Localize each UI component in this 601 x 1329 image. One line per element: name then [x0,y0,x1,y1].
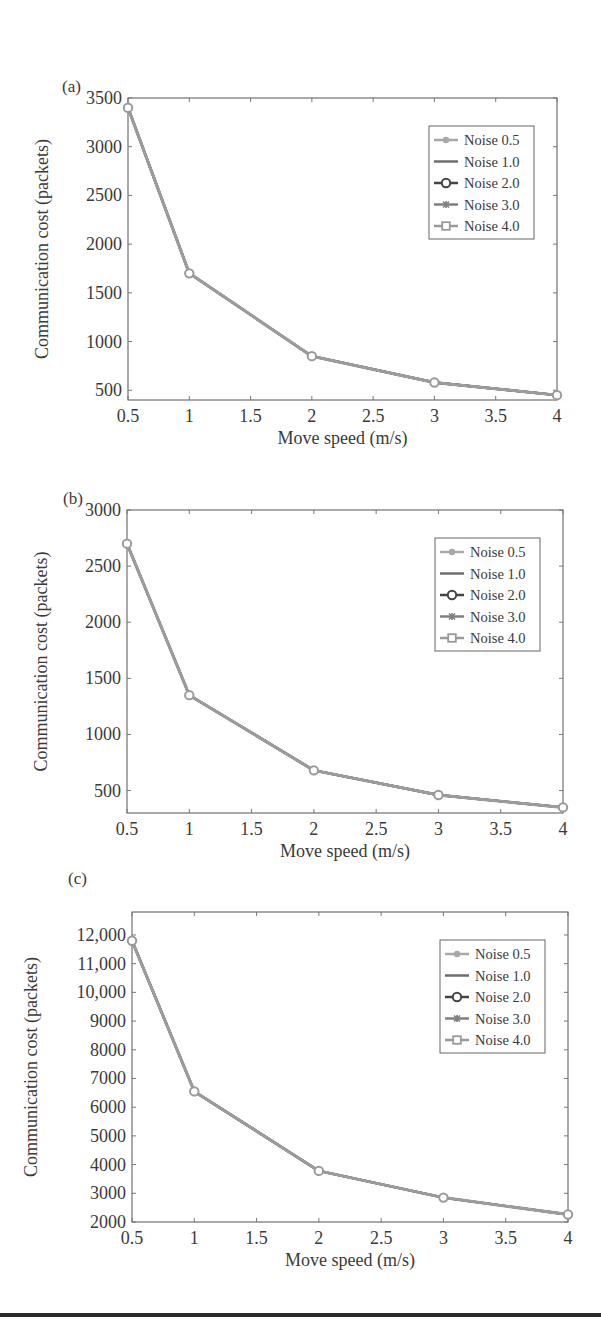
x-tick-label: 2 [309,819,318,839]
y-tick-label: 2000 [90,1212,126,1232]
x-tick-label: 1 [190,1228,199,1248]
data-point-marker [310,766,318,774]
y-tick-label: 11,000 [77,954,126,974]
dot-marker-icon [454,951,460,957]
circle-marker-icon [442,179,450,187]
square-marker-icon [453,1036,461,1044]
legend-label: Noise 4.0 [470,630,526,646]
panel-label: (b) [63,489,83,508]
y-tick-label: 1000 [86,332,122,352]
y-tick-label: 5000 [90,1126,126,1146]
y-tick-label: 2500 [86,185,122,205]
panel-label: (a) [62,77,81,96]
bottom-rule-divider [0,1313,601,1317]
legend: Noise 0.5Noise 1.0Noise 2.0Noise 3.0Nois… [435,538,540,651]
dot-marker-icon [449,549,455,555]
x-tick-label: 3 [439,1228,448,1248]
data-point-marker [439,1193,447,1201]
y-tick-label: 9000 [90,1011,126,1031]
data-point-marker [124,104,132,112]
circle-marker-icon [453,993,461,1001]
x-axis-label: Move speed (m/s) [280,841,410,862]
data-point-marker [128,937,136,945]
y-tick-label: 500 [94,781,121,801]
data-point-marker [553,391,561,399]
x-axis-label: Move speed (m/s) [278,428,408,449]
panel-label: (c) [68,869,87,888]
x-tick-label: 2.5 [370,1228,393,1248]
y-tick-label: 7000 [90,1068,126,1088]
y-tick-label: 2000 [86,234,122,254]
legend-label: Noise 3.0 [464,197,520,213]
data-point-marker [559,803,567,811]
y-tick-label: 3000 [90,1183,126,1203]
data-point-marker [185,269,193,277]
legend-label: Noise 1.0 [464,154,520,170]
x-tick-label: 1 [185,819,194,839]
y-tick-label: 3000 [86,137,122,157]
y-tick-label: 1500 [86,283,122,303]
x-tick-label: 3.5 [494,1228,517,1248]
legend-label: Noise 1.0 [470,566,526,582]
x-tick-label: 3 [430,406,439,426]
y-axis-label: Communication cost (packets) [21,957,42,1177]
legend-label: Noise 4.0 [464,218,520,234]
y-tick-label: 12,000 [77,925,127,945]
data-point-marker [315,1167,323,1175]
x-tick-label: 3 [434,819,443,839]
chart-panel-b: (b)0.511.522.533.54Move speed (m/s)50010… [31,489,568,862]
figure: (a)0.511.522.533.54Move speed (m/s)50010… [0,0,601,1329]
data-point-marker [430,378,438,386]
legend-label: Noise 2.0 [464,175,520,191]
x-tick-label: 4 [564,1228,573,1248]
chart-panel-c: (c)0.511.522.533.54Move speed (m/s)20003… [21,869,573,1271]
x-tick-label: 3.5 [484,406,507,426]
legend-label: Noise 0.5 [470,544,526,560]
y-tick-label: 10,000 [77,982,127,1002]
y-axis-label: Communication cost (packets) [31,552,52,772]
x-tick-label: 0.5 [116,819,139,839]
chart-canvas: (a)0.511.522.533.54Move speed (m/s)50010… [0,0,601,1329]
x-tick-label: 1.5 [239,406,262,426]
y-tick-label: 500 [95,380,122,400]
y-tick-label: 3000 [85,500,121,520]
x-axis-label: Move speed (m/s) [285,1250,415,1271]
data-point-marker [123,539,131,547]
y-tick-label: 4000 [90,1155,126,1175]
legend-label: Noise 1.0 [475,968,531,984]
legend: Noise 0.5Noise 1.0Noise 2.0Noise 3.0Nois… [429,126,534,239]
x-tick-label: 0.5 [117,406,140,426]
legend-label: Noise 3.0 [470,609,526,625]
legend-label: Noise 2.0 [475,989,531,1005]
x-tick-label: 2.5 [362,406,385,426]
x-tick-label: 2 [307,406,316,426]
chart-panel-a: (a)0.511.522.533.54Move speed (m/s)50010… [32,77,562,449]
circle-marker-icon [448,591,456,599]
y-tick-label: 6000 [90,1097,126,1117]
y-tick-label: 2500 [85,556,121,576]
legend-label: Noise 2.0 [470,587,526,603]
legend-label: Noise 0.5 [475,946,531,962]
data-point-marker [190,1087,198,1095]
square-marker-icon [442,222,450,230]
legend: Noise 0.5Noise 1.0Noise 2.0Noise 3.0Nois… [440,940,545,1053]
data-point-marker [185,691,193,699]
y-tick-label: 1000 [85,724,121,744]
square-marker-icon [448,634,456,642]
y-axis-label: Communication cost (packets) [32,139,53,359]
x-tick-label: 1 [185,406,194,426]
data-point-marker [308,352,316,360]
x-tick-label: 3.5 [489,819,512,839]
x-tick-label: 2 [314,1228,323,1248]
legend-label: Noise 0.5 [464,132,520,148]
x-tick-label: 4 [559,819,568,839]
x-tick-label: 1.5 [240,819,263,839]
y-tick-label: 2000 [85,612,121,632]
y-tick-label: 8000 [90,1040,126,1060]
y-tick-label: 3500 [86,88,122,108]
data-point-marker [434,791,442,799]
legend-label: Noise 4.0 [475,1032,531,1048]
dot-marker-icon [443,137,449,143]
legend-label: Noise 3.0 [475,1011,531,1027]
y-tick-label: 1500 [85,668,121,688]
